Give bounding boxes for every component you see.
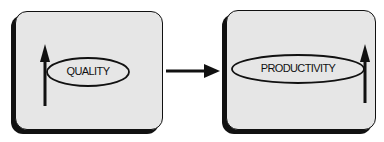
quality-label: QUALITY	[47, 65, 129, 77]
flow-arrow-icon	[166, 64, 220, 78]
productivity-label: PRODUCTIVITY	[232, 62, 364, 74]
